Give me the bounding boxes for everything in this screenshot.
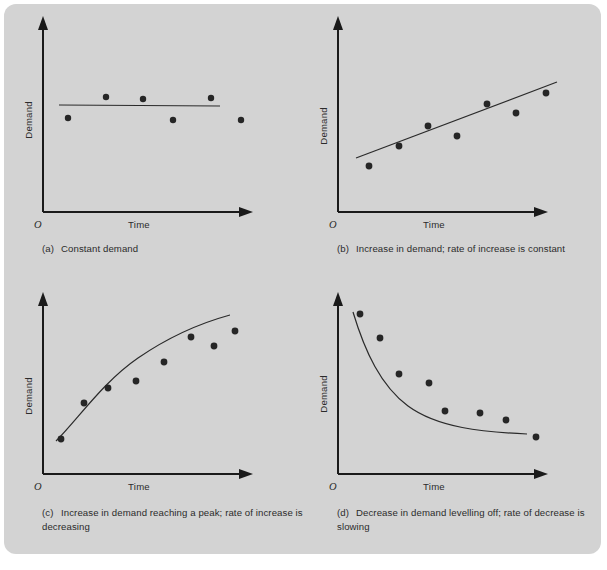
data-point: [442, 408, 449, 415]
plot-b: O Time Demand: [303, 6, 606, 241]
data-point: [366, 163, 373, 170]
x-axis-label-a: Time: [128, 219, 150, 230]
data-point: [357, 311, 364, 318]
x-axis-label-b: Time: [423, 219, 445, 230]
y-axis-label-d: Demand: [318, 375, 329, 412]
origin-label-c: O: [34, 481, 42, 492]
data-point: [477, 410, 484, 417]
data-point: [377, 335, 384, 342]
data-point: [103, 94, 109, 100]
trend-curve-c: [56, 315, 230, 441]
data-point: [503, 417, 510, 424]
origin-label-d: O: [329, 481, 337, 492]
y-axis-label-c: Demand: [23, 377, 34, 414]
data-point: [161, 359, 168, 366]
y-axis-arrow-c: [38, 292, 48, 306]
data-point: [238, 117, 244, 123]
data-point: [533, 434, 540, 441]
caption-index-c: (c): [42, 506, 61, 520]
chart-panel-c: O Time Demand (c)Increase in demand reac…: [8, 282, 311, 557]
caption-d: (d)Decrease in demand levelling off; rat…: [337, 506, 602, 533]
data-point: [484, 101, 491, 108]
x-axis-arrow-d: [534, 469, 548, 479]
caption-text-d: Decrease in demand levelling off; rate o…: [337, 507, 585, 532]
plot-d: O Time Demand: [303, 282, 606, 517]
y-axis-arrow-b: [333, 16, 343, 30]
x-axis-arrow-b: [534, 207, 548, 217]
plot-c: O Time Demand: [8, 282, 311, 517]
data-point: [105, 385, 112, 392]
y-axis-arrow-d: [333, 292, 343, 306]
chart-panel-a: O Time Demand (a)Constant demand: [8, 6, 311, 281]
plot-a: O Time Demand: [8, 6, 311, 241]
data-point: [81, 400, 88, 407]
trend-line-a: [59, 105, 220, 106]
x-axis-label-c: Time: [128, 481, 150, 492]
y-axis-arrow-a: [38, 16, 48, 30]
data-point: [454, 133, 461, 140]
data-point: [425, 123, 432, 130]
data-point: [543, 90, 550, 97]
caption-a: (a)Constant demand: [42, 242, 307, 256]
chart-panel-d: O Time Demand (d)Decrease in demand leve…: [303, 282, 606, 557]
data-point: [133, 378, 140, 385]
caption-text-a: Constant demand: [61, 243, 138, 254]
data-point: [208, 95, 214, 101]
caption-c: (c)Increase in demand reaching a peak; r…: [42, 506, 307, 533]
trend-curve-d: [353, 312, 527, 434]
trend-line-b: [356, 82, 557, 158]
data-point: [170, 117, 176, 123]
figure-page: O Time Demand (a)Constant demand O Time …: [0, 0, 607, 570]
origin-label-b: O: [329, 219, 337, 230]
y-axis-label-b: Demand: [318, 107, 329, 144]
caption-text-c: Increase in demand reaching a peak; rate…: [42, 507, 303, 532]
x-axis-arrow-a: [239, 207, 253, 217]
data-point: [65, 115, 71, 121]
x-axis-arrow-c: [239, 469, 253, 479]
data-point: [396, 143, 403, 150]
caption-text-b: Increase in demand; rate of increase is …: [356, 243, 565, 254]
data-point: [426, 380, 433, 387]
caption-b: (b)Increase in demand; rate of increase …: [337, 242, 602, 256]
data-point: [140, 96, 146, 102]
caption-index-b: (b): [337, 242, 356, 256]
y-axis-label-a: Demand: [23, 101, 34, 138]
chart-panel-b: O Time Demand (b)Increase in demand; rat…: [303, 6, 606, 281]
data-point: [232, 328, 239, 335]
x-axis-label-d: Time: [423, 481, 445, 492]
data-point: [396, 371, 403, 378]
caption-index-a: (a): [42, 242, 61, 256]
data-point: [211, 343, 218, 350]
data-point: [188, 334, 195, 341]
caption-index-d: (d): [337, 506, 356, 520]
data-point: [58, 436, 65, 443]
origin-label-a: O: [34, 219, 42, 230]
data-point: [513, 110, 520, 117]
